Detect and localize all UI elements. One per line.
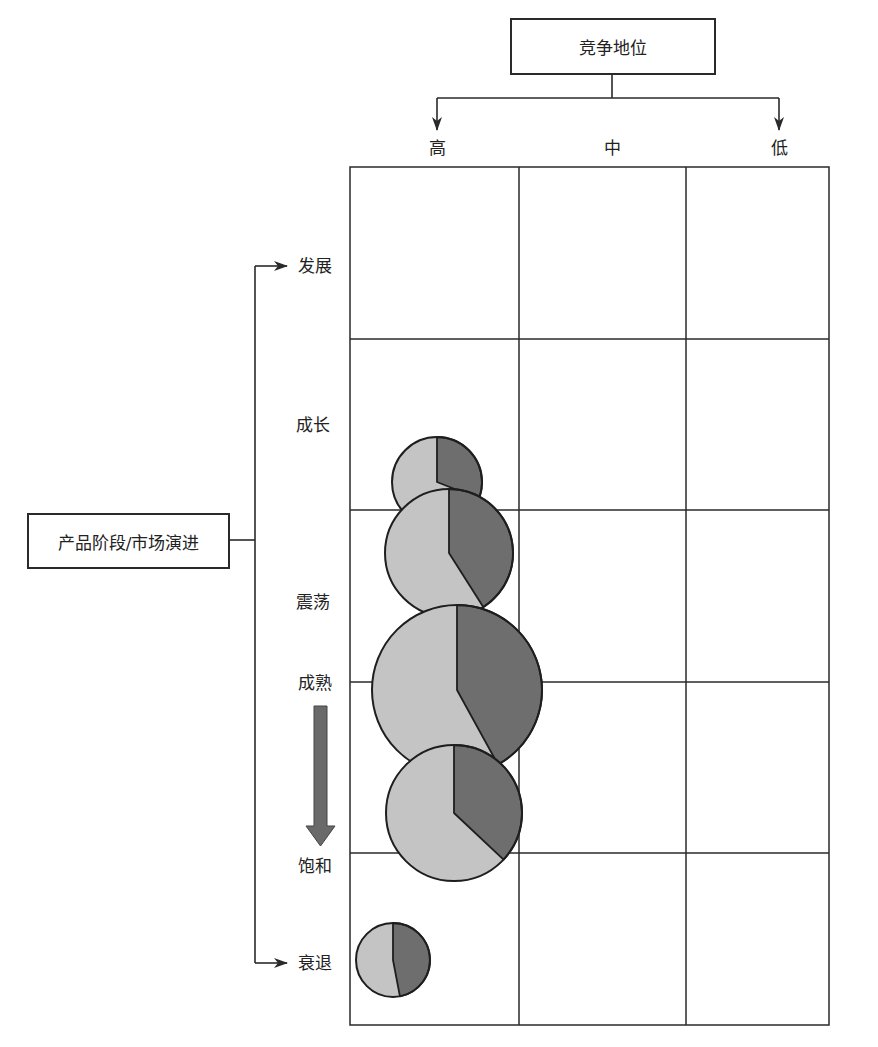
column-label-low: 低: [771, 138, 788, 158]
competitive-position-title: 竞争地位: [579, 34, 647, 59]
column-label-high: 高: [429, 138, 446, 158]
column-label-medium: 中: [604, 138, 621, 158]
pie-bubble: [356, 923, 430, 997]
left-connector: [230, 266, 287, 963]
row-label-saturation: 饱和: [298, 856, 332, 876]
pie-bubble: [386, 745, 522, 881]
row-label-maturity: 成熟: [298, 673, 332, 693]
pie-slice-dark: [393, 923, 430, 996]
row-label-development: 发展: [298, 256, 332, 276]
bubble-layer: [356, 437, 542, 997]
product-stage-box: 产品阶段/市场演进: [27, 513, 230, 569]
top-connector: [437, 75, 779, 130]
diagram: 竞争地位 高 中 低 产品阶段/市场演进 发展 成长 震荡 成熟 饱和 衰退: [0, 0, 878, 1047]
row-label-growth: 成长: [296, 415, 330, 435]
pie-bubble: [385, 489, 513, 617]
product-stage-title: 产品阶段/市场演进: [58, 529, 200, 554]
row-label-decline: 衰退: [298, 953, 332, 973]
row-label-shakeout: 震荡: [296, 592, 330, 612]
competitive-position-box: 竞争地位: [510, 18, 716, 75]
trend-down-arrow-icon: [306, 706, 335, 846]
